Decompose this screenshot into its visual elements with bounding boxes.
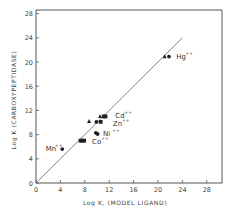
x-tick-label: 28 [203, 186, 211, 194]
annotation-zn: Zn [113, 120, 122, 128]
annotation-charge: ++ [112, 128, 120, 133]
annotation-charge: ++ [186, 51, 194, 56]
x-tick-label: 8 [83, 186, 87, 194]
y-tick-label: 28 [25, 10, 33, 18]
data-point-circle [167, 55, 171, 59]
data-point-triangle [87, 119, 91, 123]
y-tick-label: 24 [25, 34, 33, 42]
y-tick-label: 16 [25, 83, 33, 91]
x-tick-label: 24 [178, 186, 186, 194]
x-tick-label: 16 [129, 186, 137, 194]
annotation-ni: Ni [103, 130, 110, 138]
annotation-charge: ++ [125, 110, 133, 115]
x-tick-label: 12 [105, 186, 113, 194]
y-tick-label: 8 [29, 131, 33, 139]
data-point-square [104, 115, 108, 119]
x-axis-label: Log K, (MODEL LIGAND) [83, 199, 167, 207]
x-tick-label: 4 [58, 186, 62, 194]
annotation-charge: ++ [55, 143, 63, 148]
data-point-circle [94, 120, 98, 124]
data-point-square [99, 120, 103, 124]
plot-frame [36, 10, 222, 183]
y-tick-label: 0 [29, 180, 33, 188]
annotation-co: Co [92, 138, 101, 146]
y-tick-label: 20 [25, 59, 33, 67]
data-point-square [82, 139, 86, 143]
x-tick-label: 0 [34, 186, 38, 194]
annotation-cd: Cd [115, 112, 124, 120]
identity-line [36, 38, 182, 183]
data-point-triangle [98, 114, 102, 118]
scatter-chart: 04812162024280481216202428 Mn++Co++Ni++Z… [0, 0, 232, 216]
x-tick-label: 20 [154, 186, 162, 194]
data-point-circle [96, 132, 100, 136]
y-tick-label: 4 [29, 155, 33, 163]
y-tick-label: 12 [25, 107, 33, 115]
y-axis-label: Log K (CARBOXYPEPTIDASE) [10, 51, 18, 150]
